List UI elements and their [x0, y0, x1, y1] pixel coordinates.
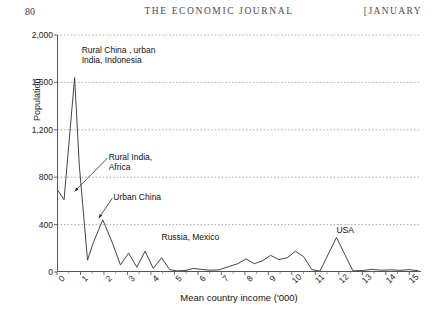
y-axis-tick-label: 1,600	[32, 77, 53, 87]
y-axis-tick-label: 1,200	[32, 125, 53, 135]
journal-page: 80 THE ECONOMIC JOURNAL [JANUARY Populat…	[0, 0, 438, 315]
issue-month: [JANUARY	[364, 6, 422, 16]
chart-annotation: Rural China , urban India, Indonesia	[82, 45, 156, 65]
chart-annotation: Urban China	[113, 192, 161, 202]
chart-annotation: USA	[336, 225, 353, 235]
x-axis-title: Mean country income ('000)	[57, 292, 421, 303]
running-head: 80 THE ECONOMIC JOURNAL [JANUARY	[0, 6, 438, 22]
chart-annotation: Rural India, Africa	[109, 152, 152, 172]
y-axis-tick-label: 0	[48, 267, 53, 277]
y-axis-tick-label: 800	[39, 172, 53, 182]
y-axis-tick-label: 400	[39, 220, 53, 230]
figure-population-vs-income: Population 04008001,2001,6002,0000123456…	[0, 24, 438, 315]
y-axis-tick-label: 2,000	[32, 30, 53, 40]
chart-annotation: Russia, Mexico	[162, 232, 220, 242]
